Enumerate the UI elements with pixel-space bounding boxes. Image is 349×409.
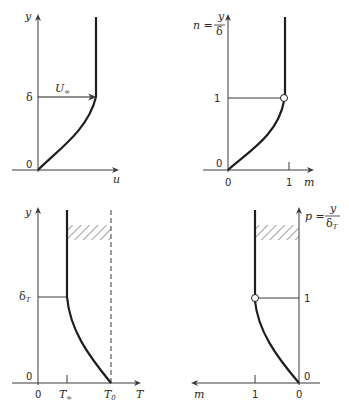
- t-wall-label: T0: [104, 388, 116, 402]
- x-axis-label: u: [113, 173, 120, 186]
- level-label: 1: [214, 93, 220, 104]
- origin-x-label: 0: [296, 389, 302, 400]
- origin-y-label: 0: [26, 371, 32, 382]
- velocity-curve: [38, 97, 96, 170]
- y-axis-frac-num: y: [329, 202, 337, 215]
- y-axis-label: y: [24, 10, 32, 23]
- origin-x-label: 0: [225, 177, 231, 188]
- y-axis-frac-den: δ: [216, 25, 223, 38]
- u-inf-label: U∞: [55, 82, 70, 96]
- x-tick-label: 1: [252, 389, 258, 400]
- boundary-edge-marker: [281, 95, 288, 102]
- origin-y-label: 0: [216, 158, 222, 169]
- x-axis-label: T: [136, 388, 145, 401]
- boundary-edge-marker: [252, 295, 259, 302]
- hatched-region: [68, 225, 111, 240]
- origin-x-label: 0: [35, 389, 41, 400]
- origin-y-label: 0: [304, 371, 310, 382]
- t-inf-label: T∞: [59, 388, 72, 402]
- temperature-curve: [67, 297, 111, 383]
- y-axis-label: p =: [305, 210, 325, 223]
- x-axis-label: m: [304, 176, 314, 189]
- panel-dimensionless-temperature: p = y δT 1 0 0 1 m: [194, 202, 340, 401]
- boundary-layer-diagram: y u 0 δ U∞ n = y δ 1 0 0 1 m y δT 0: [0, 0, 349, 409]
- velocity-curve: [228, 101, 284, 170]
- delta-t-label: δT: [19, 290, 32, 304]
- hatched-region: [256, 225, 299, 240]
- y-axis-label: y: [24, 206, 32, 219]
- panel-temperature-profile: y δT 0 0 T∞ T0 T: [12, 206, 145, 402]
- origin-label: 0: [26, 159, 32, 170]
- panel-dimensionless-velocity: n = y δ 1 0 0 1 m: [193, 10, 314, 189]
- y-axis-label: n =: [193, 19, 213, 32]
- level-label: 1: [304, 293, 310, 304]
- x-tick-label: 1: [286, 177, 292, 188]
- y-axis-frac-num: y: [217, 10, 225, 23]
- delta-label: δ: [26, 91, 33, 104]
- panel-velocity-profile: y u 0 δ U∞: [12, 10, 120, 186]
- y-axis-frac-den: δT: [326, 217, 339, 231]
- x-axis-label: m: [194, 388, 204, 401]
- temperature-curve: [255, 301, 299, 383]
